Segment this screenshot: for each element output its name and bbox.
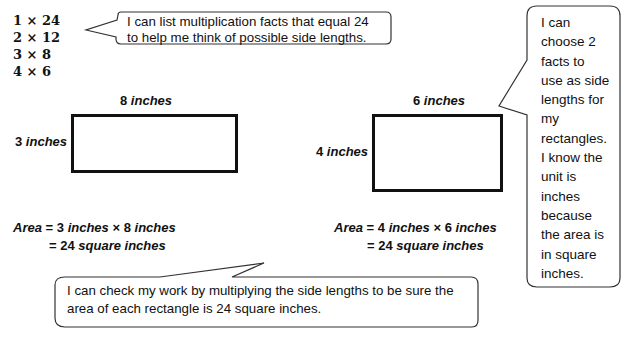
- right-callout-text: I can choose 2 facts to use as side leng…: [541, 13, 609, 283]
- rectangle-4-by-6: [372, 114, 503, 192]
- callout-line: lengths for: [541, 90, 609, 109]
- rect1-area-equation: Area = 3 inches × 8 inches = 24 square i…: [13, 219, 176, 255]
- rect1-height-label: 3 inches: [15, 134, 67, 149]
- multiplication-facts-list: 1 × 24 2 × 12 3 × 8 4 × 6: [13, 12, 60, 80]
- rectangle-3-by-8: [71, 114, 238, 173]
- fact-item: 1 × 24: [13, 12, 60, 29]
- callout-line: use as side: [541, 71, 609, 90]
- callout-line: I can: [541, 13, 609, 32]
- callout-line: I can list multiplication facts that equ…: [127, 14, 369, 30]
- callout-line: choose 2: [541, 32, 609, 51]
- callout-line: my: [541, 109, 609, 128]
- fact-item: 2 × 12: [13, 29, 60, 46]
- callout-line: I can check my work by multiplying the s…: [67, 282, 454, 300]
- top-callout-text: I can list multiplication facts that equ…: [127, 14, 369, 46]
- rect2-height-label: 4 inches: [316, 144, 368, 159]
- bottom-callout-text: I can check my work by multiplying the s…: [67, 282, 454, 318]
- callout-line: inches: [541, 187, 609, 206]
- callout-line: the area is: [541, 225, 609, 244]
- callout-line: inches.: [541, 264, 609, 283]
- callout-line: unit is: [541, 167, 609, 186]
- rect2-width-label: 6 inches: [413, 93, 465, 108]
- callout-line: to help me think of possible side length…: [127, 30, 369, 46]
- fact-item: 3 × 8: [13, 46, 60, 63]
- callout-line: because: [541, 206, 609, 225]
- callout-line: rectangles.: [541, 129, 609, 148]
- callout-line: I know the: [541, 148, 609, 167]
- rect1-width-label: 8 inches: [120, 93, 172, 108]
- callout-line: area of each rectangle is 24 square inch…: [67, 300, 454, 318]
- rect2-area-equation: Area = 4 inches × 6 inches = 24 square i…: [334, 219, 497, 255]
- callout-line: facts to: [541, 52, 609, 71]
- fact-item: 4 × 6: [13, 63, 60, 80]
- callout-line: in square: [541, 245, 609, 264]
